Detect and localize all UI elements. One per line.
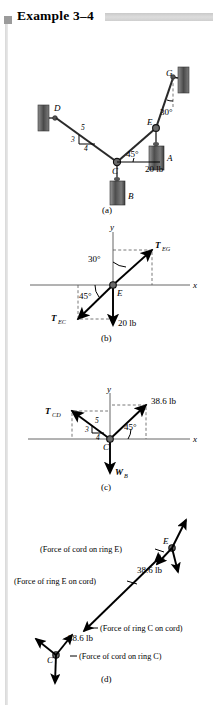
angle-30-label-a: 30° [160,107,173,117]
axis-y-label-c: y [106,384,111,394]
slope-hyp-label-a: 5 [81,123,85,132]
angle-30-label-b: 30° [88,254,101,264]
axis-x-label-c: x [192,434,197,444]
vector-tec-subscript: EC [57,318,67,325]
ring-e-label-d: E [162,536,169,546]
vector-teg-subscript: EG [161,245,171,252]
angle-30-arc-b [113,262,126,267]
point-label-d: D [53,103,61,113]
load-label-a: 20 lb [145,164,164,174]
slope-vert-label-c: 3 [84,425,89,434]
wall-bracket-g [171,67,189,93]
vector-teg [113,250,152,285]
axis-x-label-b: x [192,280,197,290]
panel-a: 5 3 4 30° 45° D C E G A B 20 lb [0,45,214,210]
slope-horz-label-a: 4 [84,144,88,153]
square-marker-icon [4,16,12,24]
vector-c-down [55,655,56,683]
panel-d: E C 38.6 lb 38.6 lb (Force of cord on ri… [0,500,214,705]
origin-label-b: E [116,288,123,298]
angle-45-label-b: 45° [79,291,92,301]
ring-c-label-d: C [47,655,54,665]
panel-c: x y 5 3 4 T CD 45° 38.6 lb W B [0,385,214,495]
slope-horz-label-c: 4 [96,433,100,442]
example-header: Example 3–4 [0,8,214,32]
vector-c-up-left [36,639,56,655]
slope-hyp-label-c: 5 [95,416,99,425]
angle-45-label-c: 45° [124,422,137,432]
force-label-c: 38.6 lb [151,396,177,406]
note-ring-c-on-cord: (Force of ring C on cord) [100,624,183,633]
vector-tec-symbol: T [51,313,57,323]
vector-wb-symbol: W [115,467,124,477]
vector-wb-subscript: B [124,472,128,479]
panel-a-caption-wrap: (a) [0,205,214,215]
force-label-top-d: 38.6 lb [137,565,163,575]
ring-e [153,125,160,132]
cord-eg [156,78,173,128]
vector-teg-symbol: T [155,240,161,250]
caption-a: (a) [0,205,214,215]
angle-45-arc-b [95,285,99,297]
load-label-b: 20 lb [118,318,137,328]
caption-c: (c) [101,482,111,492]
page-title: Example 3–4 [17,8,94,24]
figure-page: Example 3–4 [0,0,214,705]
note-ring-e-on-cord: (Force of ring E on cord) [14,577,96,586]
origin-label-c: C [103,442,110,452]
vector-e-down [172,548,178,572]
vector-tcd-subscript: CD [52,411,61,418]
caption-d: (d) [101,674,112,684]
note-cord-on-ring-c: (Force of cord on ring C) [79,652,162,661]
point-label-e: E [146,117,153,127]
leader-cord-on-ring-e [155,549,164,552]
angle-45-label-a: 45° [126,149,139,159]
note-cord-on-ring-e: (Force of cord on ring E) [40,545,122,554]
header-rule-bar [105,13,213,21]
cord-dc [56,118,117,162]
caption-b: (b) [101,333,112,343]
panel-b: x y 30° T EG 45° T EC 20 lb E (b) [0,222,214,347]
slope-vert-label-a: 3 [70,135,75,144]
vector-e-up-right [172,520,186,548]
ring-e-b [110,282,117,289]
point-label-c: C [112,166,119,176]
point-label-a: A [166,153,173,163]
vector-tcd-symbol: T [45,406,51,416]
point-label-g: G [166,68,173,78]
point-label-b: B [128,191,134,201]
force-label-bottom-d: 38.6 lb [68,633,94,643]
axis-y-label-b: y [109,222,114,232]
vector-tcd [72,411,110,439]
